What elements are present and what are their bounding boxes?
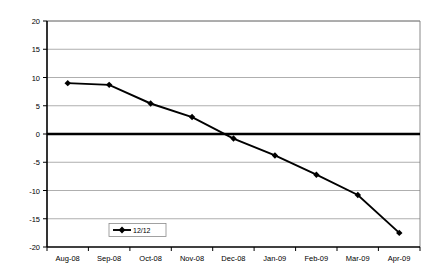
chart-canvas: 20 15 10 5 0 -5 -10 -15 -20 Aug-08 Sep <box>0 0 442 279</box>
y-tick-label: 5 <box>36 102 40 111</box>
y-tick-label: 10 <box>32 74 40 83</box>
y-tick-label: 0 <box>36 130 40 139</box>
x-tick-label: Feb-09 <box>304 254 328 263</box>
x-axis-labels: Aug-08 Sep-08 Oct-08 Nov-08 Dec-08 Jan-0… <box>56 254 411 263</box>
y-tick-label: 15 <box>32 45 40 54</box>
y-tick-label: -10 <box>29 187 40 196</box>
x-tick-label: Mar-09 <box>346 254 370 263</box>
y-tick-label: -15 <box>29 215 40 224</box>
x-tick-label: Oct-08 <box>139 254 162 263</box>
line-chart: 20 15 10 5 0 -5 -10 -15 -20 Aug-08 Sep <box>0 0 442 279</box>
y-tick-label: -5 <box>33 158 40 167</box>
y-tick-label: 20 <box>32 17 40 26</box>
legend-entry-label: 12/12 <box>133 227 151 234</box>
x-tick-label: Apr-09 <box>388 254 411 263</box>
y-tick-label: -20 <box>29 243 40 252</box>
y-axis-labels: 20 15 10 5 0 -5 -10 -15 -20 <box>29 17 40 252</box>
x-tick-label: Aug-08 <box>56 254 80 263</box>
x-tick-label: Nov-08 <box>180 254 204 263</box>
x-tick-label: Sep-08 <box>97 254 121 263</box>
chart-legend[interactable]: 12/12 <box>109 224 166 237</box>
x-tick-label: Jan-09 <box>263 254 286 263</box>
x-tick-label: Dec-08 <box>221 254 245 263</box>
